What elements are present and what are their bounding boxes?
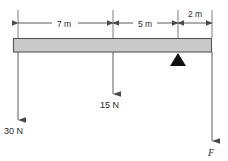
dimension-2m: 2 m xyxy=(178,9,212,23)
force-label-15n: 15 N xyxy=(100,100,119,110)
diagram-canvas: 7 m 5 m 2 m 30 N 15 N F xyxy=(0,0,228,161)
dimension-7m-label: 7 m xyxy=(57,19,71,29)
fulcrum-triangle xyxy=(170,53,186,66)
dimension-5m-label: 5 m xyxy=(138,19,152,29)
dimension-7m: 7 m xyxy=(18,19,113,29)
extension-lines xyxy=(18,10,212,38)
beam-diagram: 7 m 5 m 2 m 30 N 15 N F xyxy=(0,0,228,161)
force-arrow-15n: 15 N xyxy=(100,52,119,110)
force-label-30n: 30 N xyxy=(4,126,23,136)
beam xyxy=(14,39,212,53)
dimension-2m-label: 2 m xyxy=(188,9,202,19)
force-label-f: F xyxy=(207,147,215,158)
dimension-5m: 5 m xyxy=(113,19,178,29)
force-arrow-30n: 30 N xyxy=(4,52,23,136)
force-arrow-f: F xyxy=(207,52,215,158)
